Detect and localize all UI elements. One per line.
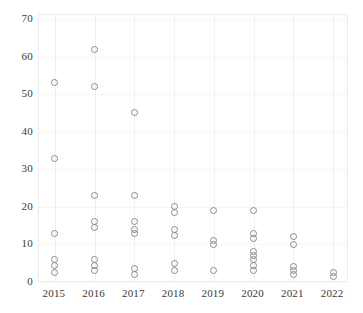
x-tick-label: 2017 (122, 288, 145, 299)
x-tick-label: 2022 (321, 288, 344, 299)
x-tick-label: 2015 (42, 288, 65, 299)
x-tick-label: 2019 (201, 288, 224, 299)
x-tick-label: 2020 (241, 288, 264, 299)
scatter-chart: 010203040506070 201520162017201820192020… (0, 0, 363, 313)
x-tick-label: 2021 (281, 288, 304, 299)
x-tick-label: 2016 (82, 288, 105, 299)
x-tick-label: 2018 (162, 288, 185, 299)
x-axis: 20152016201720182019202020212022 (0, 0, 363, 313)
